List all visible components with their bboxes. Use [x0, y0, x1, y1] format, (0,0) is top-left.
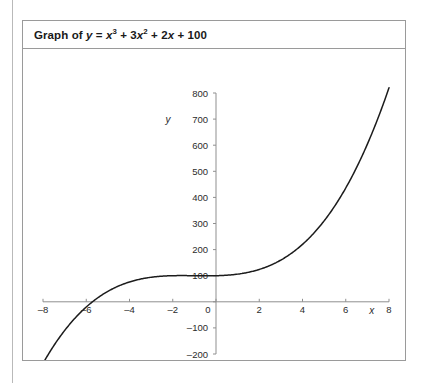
x-axis-tick-labels: –8–6–4–202468 [38, 304, 392, 315]
svg-text:600: 600 [192, 140, 208, 151]
y-axis-tick-labels: –200–100100200300400500600700800 [187, 88, 208, 360]
y-axis [213, 93, 216, 354]
page-margin-line [12, 0, 13, 383]
svg-text:6: 6 [343, 304, 348, 315]
figure-frame: Graph of y = x3 + 3x2 + 2x + 100 –8–6–4–… [22, 20, 406, 361]
svg-text:–2: –2 [167, 304, 178, 315]
svg-text:700: 700 [192, 114, 208, 125]
svg-text:400: 400 [192, 192, 208, 203]
x-axis-label: x [368, 305, 375, 316]
svg-text:–4: –4 [124, 304, 135, 315]
svg-text:8: 8 [386, 304, 391, 315]
svg-text:4: 4 [300, 304, 305, 315]
svg-text:–100: –100 [187, 322, 208, 333]
chart-plot-area: –8–6–4–202468 –200–100100200300400500600… [23, 49, 405, 360]
svg-text:–200: –200 [187, 349, 208, 360]
title-plus3: + 100 [174, 29, 207, 41]
title-equals: = [93, 29, 106, 41]
svg-text:0: 0 [205, 304, 210, 315]
title-prefix: Graph of [34, 29, 86, 41]
page-title: Graph of y = x3 + 3x2 + 2x + 100 [23, 29, 207, 41]
svg-text:500: 500 [192, 166, 208, 177]
svg-text:2: 2 [257, 304, 262, 315]
svg-text:300: 300 [192, 218, 208, 229]
svg-text:–6: –6 [81, 304, 92, 315]
cubic-function-chart: –8–6–4–202468 –200–100100200300400500600… [23, 49, 405, 360]
svg-text:200: 200 [192, 244, 208, 255]
y-axis-label: y [165, 114, 172, 125]
title-plus1: + 3 [117, 29, 137, 41]
svg-text:–8: –8 [38, 304, 49, 315]
figure-title-bar: Graph of y = x3 + 3x2 + 2x + 100 [23, 21, 405, 49]
svg-text:800: 800 [192, 88, 208, 99]
title-plus2: + 2 [148, 29, 168, 41]
